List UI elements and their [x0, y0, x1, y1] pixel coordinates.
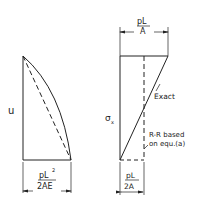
diagram-canvas: u pL 2 2AE σ x pL A pL 2A	[0, 0, 207, 207]
approx-displacement-line	[23, 56, 71, 160]
exact-leader-line	[156, 84, 160, 91]
sigma-x-subscript: x	[111, 119, 114, 125]
top-dim-denominator: A	[140, 27, 146, 36]
bottom-dim-numerator: pL	[126, 171, 136, 180]
left-dim-denominator: 2AE	[37, 182, 53, 191]
bottom-dim-denominator: 2A	[124, 182, 135, 191]
rr-annotation-line2: on equ.(a)	[149, 140, 185, 148]
rr-annotation-line1: R-R based	[149, 131, 184, 139]
left-dim-superscript: 2	[52, 167, 55, 173]
exact-annotation: Exact	[154, 92, 175, 101]
stress-diagram: σ x pL A pL 2A Exact R-R based on equ.(a…	[105, 17, 185, 195]
u-axis-label: u	[8, 105, 14, 116]
top-dim-numerator: pL	[137, 17, 147, 26]
left-dim-numerator: pL	[39, 171, 49, 180]
rr-leader-line	[144, 145, 148, 149]
displacement-diagram: u pL 2 2AE	[8, 56, 71, 193]
